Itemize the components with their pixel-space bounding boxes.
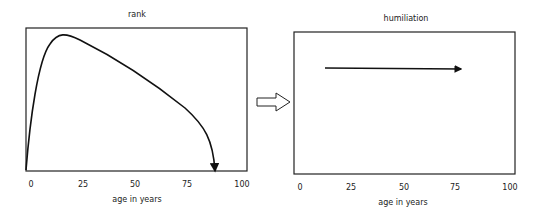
- humiliation-tick-50: 50: [399, 183, 409, 192]
- humiliation-tick-100: 100: [502, 183, 517, 192]
- rank-title: rank: [128, 10, 146, 19]
- humiliation-title: humiliation: [384, 14, 429, 23]
- humiliation-tick-0: 0: [297, 183, 302, 192]
- rank-plot-frame: [26, 28, 247, 171]
- rank-tick-25: 25: [78, 180, 88, 189]
- rank-tick-0: 0: [28, 180, 33, 189]
- rank-tick-100: 100: [234, 180, 249, 189]
- humiliation-xlabel: age in years: [378, 198, 427, 207]
- humiliation-plot-frame: [294, 32, 515, 174]
- rank-tick-50: 50: [130, 180, 140, 189]
- humiliation-arrow: [325, 68, 461, 69]
- right-arrow-icon: [257, 93, 290, 111]
- rank-xlabel: age in years: [112, 195, 161, 204]
- humiliation-tick-25: 25: [346, 183, 356, 192]
- humiliation-tick-75: 75: [450, 183, 460, 192]
- rank-curve: [26, 35, 215, 171]
- rank-tick-75: 75: [182, 180, 192, 189]
